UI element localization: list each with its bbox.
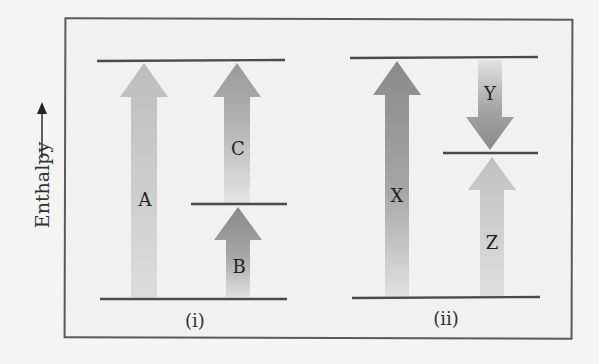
- level-top-i: [97, 60, 285, 61]
- arrow-label-c: C: [231, 138, 245, 159]
- arrow-label-y: Y: [484, 83, 496, 104]
- arrow-a: [120, 63, 168, 297]
- arrow-label-x: X: [391, 185, 404, 206]
- arrow-label-z: Z: [486, 232, 499, 253]
- arrow-z: [468, 157, 516, 296]
- arrow-label-a: A: [139, 189, 152, 210]
- level-bottom-ii: [352, 297, 540, 298]
- arrow-c: [213, 63, 261, 203]
- arrow-y: [466, 60, 514, 150]
- arrow-x: [373, 61, 421, 296]
- arrow-b: [214, 207, 262, 297]
- panel-label-i: (i): [185, 310, 205, 331]
- panel-label-ii: (ii): [433, 308, 459, 329]
- enthalpy-diagram: [0, 0, 599, 364]
- axis-label-enthalpy: Enthalpy: [31, 142, 53, 228]
- level-top-ii: [350, 57, 538, 58]
- arrow-label-b: B: [232, 256, 245, 277]
